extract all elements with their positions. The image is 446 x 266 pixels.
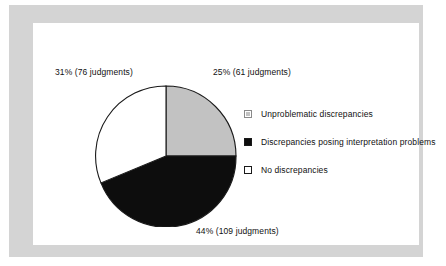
black-swatch-icon xyxy=(244,138,252,146)
legend-label-posing-problems: Discrepancies posing interpretation prob… xyxy=(261,137,436,147)
pie-label-unproblematic: 25% (61 judgments) xyxy=(213,67,291,77)
pie-chart xyxy=(95,85,237,227)
pie-label-no-discrepancies: 31% (76 judgments) xyxy=(55,67,133,77)
legend-label-unproblematic: Unproblematic discrepancies xyxy=(261,109,373,119)
chart-panel: 31% (76 judgments) 25% (61 judgments) 44… xyxy=(33,23,419,245)
pie-slice-unproblematic xyxy=(166,86,236,156)
pie-label-posing-problems: 44% (109 judgments) xyxy=(196,226,279,236)
legend-item-unproblematic: Unproblematic discrepancies xyxy=(244,108,446,119)
figure-container: 31% (76 judgments) 25% (61 judgments) 44… xyxy=(0,0,446,266)
legend-item-posing-problems: Discrepancies posing interpretation prob… xyxy=(244,136,446,147)
chart-frame-border: 31% (76 judgments) 25% (61 judgments) 44… xyxy=(9,5,423,257)
chart-legend: Unproblematic discrepancies Discrepancie… xyxy=(244,108,446,192)
white-swatch-icon xyxy=(244,166,252,174)
gray-swatch-icon xyxy=(244,110,252,118)
legend-label-no-discrepancies: No discrepancies xyxy=(261,165,328,175)
pie-chart-svg xyxy=(95,85,237,227)
legend-item-no-discrepancies: No discrepancies xyxy=(244,164,446,175)
